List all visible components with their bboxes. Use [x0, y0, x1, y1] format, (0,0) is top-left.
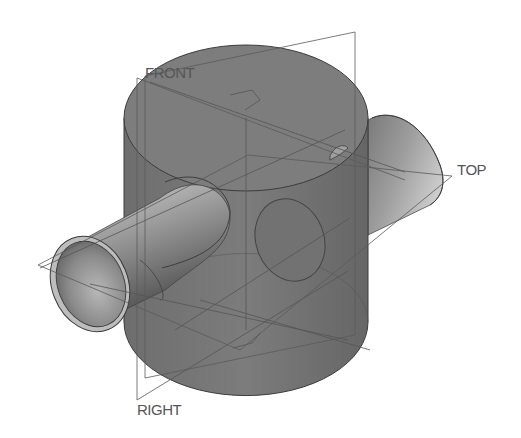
pipe-back-stub[interactable]	[368, 115, 443, 235]
datum-label-front[interactable]: FRONT	[145, 65, 194, 80]
cad-viewport[interactable]: FRONT TOP RIGHT	[0, 0, 521, 438]
datum-label-right[interactable]: RIGHT	[137, 402, 181, 417]
model-canvas[interactable]	[0, 0, 521, 438]
datum-label-top[interactable]: TOP	[457, 162, 486, 177]
